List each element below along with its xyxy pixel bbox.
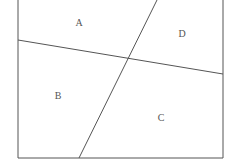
region-label-b: B — [55, 90, 62, 101]
region-label-a: A — [75, 17, 83, 28]
line-slanted — [79, 0, 157, 158]
line-horizontal — [18, 40, 223, 74]
region-label-c: C — [158, 112, 165, 123]
region-label-d: D — [178, 28, 185, 39]
partition-diagram: A B C D — [0, 0, 229, 163]
frame — [18, 0, 223, 158]
